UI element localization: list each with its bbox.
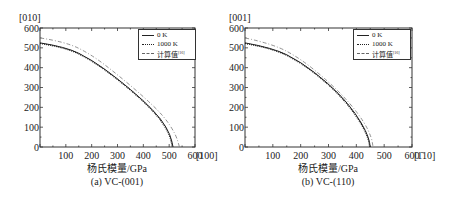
x-tick-label: 100 [58,150,73,161]
y-tick-label: 100 [229,122,244,133]
y-tick-label: 300 [24,82,39,93]
y-tick-label: 500 [24,42,39,53]
legend-dashdot-line-icon [357,53,369,54]
legend-label-0k-b: 0 K [372,31,382,39]
legend-dotted-line-icon [357,44,369,45]
series-line-dotted [245,43,370,147]
y-tick-label: 400 [229,62,244,73]
x-direction-label-b: [1̄10] [414,150,435,161]
legend-solid-line-icon [142,35,154,36]
x-tick-label: 500 [162,150,177,161]
y-tick-label: 100 [24,122,39,133]
legend-dotted-line-icon [142,44,154,45]
series-line-solid [245,43,370,147]
y-tick-label: 0 [34,142,39,153]
legend-label-0k-a: 0 K [157,31,167,39]
legend-label-calc-b: 计算值[16] [372,49,400,59]
y-tick-label: 600 [24,23,39,34]
x-axis-title-b: 杨氏模量/GPa [293,160,363,175]
legend-solid-line-icon [357,35,369,36]
legend-label-1000k-a: 1000 K [157,40,178,48]
caption-b: (b) VC-(110) [293,176,363,187]
x-tick-label: 100 [265,150,280,161]
y-tick-label: 400 [24,62,39,73]
x-tick-label: 500 [377,150,392,161]
y-tick-label: 0 [239,142,244,153]
y-tick-label: 300 [229,82,244,93]
y-tick-label: 200 [24,102,39,113]
y-direction-label-a: [010] [19,12,41,23]
legend-label-calc-a: 计算值[16] [157,49,185,59]
legend-dashdot-line-icon [142,53,154,54]
x-direction-label-a: [100] [196,150,218,161]
x-axis-title-a: 杨氏模量/GPa [82,160,152,175]
y-tick-label: 200 [229,102,244,113]
caption-a: (a) VC-(001) [82,176,152,187]
y-tick-label: 600 [229,23,244,34]
legend-a: 0 K 1000 K 计算值[16] [138,29,196,60]
legend-b: 0 K 1000 K 计算值[16] [353,29,411,60]
y-direction-label-b: [001] [229,12,251,23]
y-tick-label: 500 [229,42,244,53]
legend-label-1000k-b: 1000 K [372,40,393,48]
